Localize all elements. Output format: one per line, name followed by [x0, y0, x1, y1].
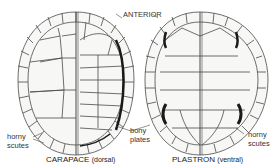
right-horny-scutes-label-1: horny	[248, 131, 267, 139]
carapace-caption: CARAPACE (dorsal)	[46, 155, 115, 164]
anterior-label: ANTERIOR	[123, 11, 162, 19]
left-horny-scutes-label-1: horny	[7, 133, 26, 141]
bony-plates-label-2: plates	[130, 136, 150, 144]
plastron-caption: PLASTRON (ventral)	[172, 155, 243, 164]
plastron-caption-sub: (ventral)	[217, 156, 243, 163]
carapace-caption-main: CARAPACE	[46, 155, 89, 164]
left-horny-scutes-label-2: scutes	[7, 142, 29, 150]
plastron-caption-main: PLASTRON	[172, 155, 215, 164]
carapace-caption-sub: (dorsal)	[92, 156, 116, 163]
carapace-illustration	[18, 12, 134, 155]
bony-plates-label-1: bony	[130, 127, 146, 135]
right-horny-scutes-label-2: scutes	[248, 140, 270, 148]
